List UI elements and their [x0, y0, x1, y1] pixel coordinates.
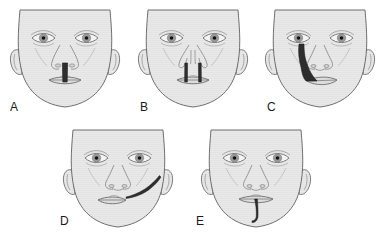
panel-label-b: B	[140, 100, 148, 114]
right-cleft-lip-defect	[198, 63, 201, 82]
panel-label-e: E	[196, 214, 204, 228]
panel-label-c: C	[267, 100, 276, 114]
craniofacial-cleft-figure	[0, 0, 386, 239]
left-cleft-lip-defect	[185, 63, 188, 82]
panel-label-a: A	[10, 100, 18, 114]
panel-label-d: D	[60, 214, 69, 228]
median-cleft-lip-defect	[62, 63, 67, 82]
